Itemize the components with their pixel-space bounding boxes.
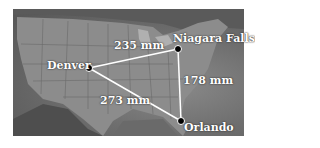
- edge-niagara-orlando: [178, 49, 181, 121]
- niagara-falls-dot: [174, 45, 182, 53]
- city-label-niagara-falls: Niagara Falls: [173, 33, 255, 44]
- city-label-orlando: Orlando: [184, 122, 234, 133]
- distance-label-denver-orlando: 273 mm: [100, 95, 150, 106]
- city-label-denver: Denver: [47, 60, 91, 71]
- distance-label-denver-niagara: 235 mm: [114, 40, 164, 51]
- distance-label-niagara-orlando: 178 mm: [183, 75, 233, 86]
